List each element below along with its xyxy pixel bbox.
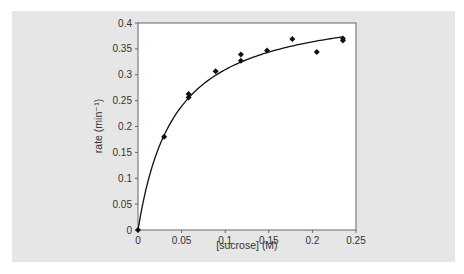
y-tick-label: 0.4 <box>118 18 132 29</box>
x-tick-label: 0 <box>135 235 141 246</box>
y-axis-title: rate (min⁻¹) <box>92 99 104 153</box>
y-tick-label: 0 <box>126 225 132 236</box>
y-tick-label: 0.25 <box>113 95 133 106</box>
y-tick-label: 0.05 <box>113 199 133 210</box>
y-tick-label: 0.2 <box>118 121 132 132</box>
x-axis-title: [sucrose] (M) <box>216 239 277 251</box>
x-tick-label: 0.2 <box>305 235 319 246</box>
y-tick-label: 0.35 <box>113 43 133 54</box>
y-axis: 00.050.10.150.20.250.30.350.4 <box>113 18 138 236</box>
y-tick-label: 0.15 <box>113 147 133 158</box>
y-tick-label: 0.1 <box>118 173 132 184</box>
y-tick-label: 0.3 <box>118 69 132 80</box>
scatter-chart: 00.050.10.150.20.250.30.350.4 00.050.10.… <box>0 0 464 274</box>
x-tick-label: 0.25 <box>346 235 366 246</box>
plot-area <box>138 23 356 230</box>
x-tick-label: 0.05 <box>172 235 192 246</box>
